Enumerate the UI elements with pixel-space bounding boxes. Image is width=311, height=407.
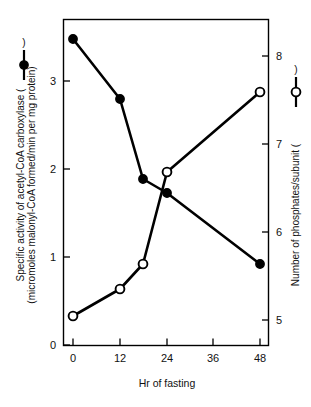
series-specific-activity [69,35,264,268]
legend-open-circle-icon [292,77,301,107]
data-point-open [69,312,78,321]
right-axis-tick-labels: 5 6 7 8 [276,50,282,326]
series-specific-activity-line [73,39,260,264]
data-point-filled [69,35,77,43]
chart-svg: 0 1 2 3 5 6 7 8 0 12 24 [0,0,311,407]
left-axis-title-group: Specific activity of acetyl-CoA carboxyl… [15,66,37,303]
data-point-filled [116,95,124,103]
data-point-open [116,285,125,294]
right-tick-label-7: 7 [276,138,282,150]
series-phosphates-per-subunit [69,88,265,321]
left-axis-ticks [64,81,71,345]
left-axis-title-line2: (micromoles malonyl-CoA formed/min per m… [26,66,37,303]
data-point-open [163,168,172,177]
right-tick-label-6: 6 [276,226,282,238]
right-tick-label-8: 8 [276,50,282,62]
left-axis-title-paren-close: ) [22,37,25,48]
data-point-filled [163,189,171,197]
right-axis-title: Number of phosphates/subunit ( [290,143,301,286]
left-tick-label-2: 2 [50,163,56,175]
right-tick-label-5: 5 [276,314,282,326]
right-axis-title-paren-close: ) [294,64,297,75]
series-phosphates-line [73,92,260,316]
x-axis-title: Hr of fasting [139,377,196,389]
data-point-open [256,88,265,97]
data-point-filled [256,260,264,268]
data-point-open [139,260,148,269]
data-point-filled [139,175,147,183]
x-tick-label-24: 24 [161,352,173,364]
x-axis-tick-labels: 0 12 24 36 48 [70,352,266,364]
right-axis-title-group: Number of phosphates/subunit ( [290,143,301,286]
left-axis-tick-labels: 0 1 2 3 [50,75,56,351]
figure-container: 0 1 2 3 5 6 7 8 0 12 24 [0,0,311,407]
left-tick-label-0: 0 [50,339,56,351]
left-axis-title-line1: Specific activity of acetyl-CoA carboxyl… [15,88,26,282]
x-tick-label-0: 0 [70,352,76,364]
left-tick-label-3: 3 [50,75,56,87]
x-tick-label-36: 36 [207,352,219,364]
x-axis-ticks [73,339,260,346]
plot-frame [64,20,269,346]
x-tick-label-48: 48 [254,352,266,364]
x-tick-label-12: 12 [114,352,126,364]
left-tick-label-1: 1 [50,251,56,263]
